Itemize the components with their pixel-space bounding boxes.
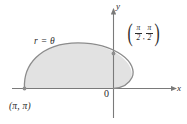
- x-axis-label: x: [177, 84, 181, 93]
- fraction-x-numerator: π: [135, 24, 141, 32]
- origin-label: 0: [104, 89, 109, 99]
- shaded-region: [24, 43, 131, 89]
- right-paren: ): [155, 24, 160, 42]
- fraction-y-denominator: 2: [146, 34, 152, 42]
- y-axis-label: y: [116, 2, 120, 11]
- equation-label: r = θ: [34, 37, 55, 47]
- coordinate-comma: ,: [142, 33, 145, 41]
- polar-curve-figure: r = θ x y 0 (π, π) ( π 2 , π 2 ): [0, 0, 187, 124]
- fraction-x-denominator: 2: [135, 34, 141, 42]
- point-label-pi-pi: (π, π): [9, 102, 31, 112]
- fraction-y-numerator: π: [146, 24, 152, 32]
- fraction-y: π 2: [145, 24, 153, 42]
- left-paren: (: [128, 24, 133, 42]
- fraction-x: π 2: [134, 24, 142, 42]
- endpoint-dot-half-pi: [112, 52, 116, 56]
- endpoint-dot-pi: [23, 87, 27, 91]
- point-label-half-pi: ( π 2 , π 2 ): [126, 24, 162, 42]
